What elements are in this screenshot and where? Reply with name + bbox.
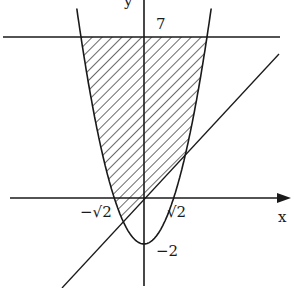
- diagram-canvas: y 7 −√2 √2 x −2: [0, 0, 294, 288]
- label-y-neg2: −2: [156, 244, 178, 259]
- x-axis-arrow-icon: [277, 193, 291, 203]
- y-axis-label: y: [124, 0, 132, 9]
- plot-svg: [0, 0, 294, 288]
- label-pos-sqrt2: √2: [167, 205, 186, 220]
- label-neg-sqrt2: −√2: [80, 205, 112, 220]
- label-y-7: 7: [156, 17, 166, 32]
- x-axis-label: x: [278, 210, 286, 225]
